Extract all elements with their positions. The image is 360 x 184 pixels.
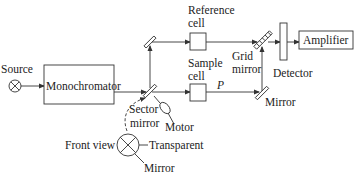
transparent-label: Transparent xyxy=(149,139,204,152)
source-icon xyxy=(9,80,21,92)
grid-mirror-label-1: Grid xyxy=(232,50,253,62)
reference-cell-box xyxy=(190,33,206,50)
grid-mirror-label-2: mirror xyxy=(232,63,262,75)
right-mirror-label: Mirror xyxy=(265,96,296,108)
spectrophotometer-diagram: Source Monochromator Motor Reference cel… xyxy=(0,0,360,184)
reference-cell-label-2: cell xyxy=(188,17,205,29)
motor-label: Motor xyxy=(165,121,194,133)
path-label: P xyxy=(216,79,224,91)
sample-cell-box xyxy=(190,84,206,101)
front-view-label: Front view xyxy=(65,139,116,151)
sample-cell-label-2: cell xyxy=(188,70,205,82)
sample-cell-label-1: Sample xyxy=(188,57,223,70)
detector-label: Detector xyxy=(273,67,313,79)
sector-mirror-label-1: Sector xyxy=(129,103,159,115)
sector-mirror-label-2: mirror xyxy=(130,117,160,129)
detector-box xyxy=(280,23,287,60)
mirror-front-pointer xyxy=(135,154,144,163)
source-label: Source xyxy=(1,63,33,75)
front-view-sector-icon xyxy=(117,134,139,156)
reference-cell-label-1: Reference xyxy=(188,4,235,16)
amplifier-label: Amplifier xyxy=(303,34,349,47)
grid-mirror-icon xyxy=(254,31,272,49)
mirror-front-label: Mirror xyxy=(144,162,175,174)
monochromator-label: Monochromator xyxy=(46,80,121,92)
